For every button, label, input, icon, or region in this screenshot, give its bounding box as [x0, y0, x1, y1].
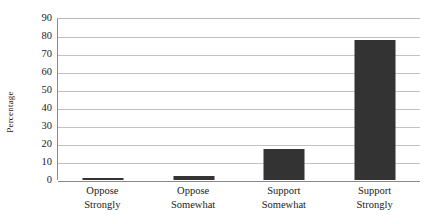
y-axis-tick-label: 90 [42, 13, 53, 24]
y-axis-tick-label: 40 [42, 103, 53, 114]
x-axis-category-labels: OpposeStronglyOpposeSomewhatSupportSomew… [57, 184, 420, 222]
bar-slot [58, 19, 149, 180]
y-axis-tick-label: 10 [42, 157, 53, 168]
x-axis-category-label-line1: Oppose [177, 185, 209, 196]
bar[interactable] [173, 176, 214, 180]
y-axis-tick-label: 20 [42, 139, 53, 150]
y-axis-tick-label: 60 [42, 67, 53, 78]
x-axis-category-label-line1: Oppose [86, 185, 118, 196]
bar-chart: Percentage 0102030405060708090 OpposeStr… [0, 0, 435, 224]
x-axis-category-label-line2: Strongly [57, 198, 148, 212]
x-axis-category-label-line1: Support [267, 185, 300, 196]
x-axis-category-label: OpposeSomewhat [148, 184, 239, 222]
x-axis-category-label: SupportSomewhat [239, 184, 330, 222]
bar-slot [149, 19, 240, 180]
x-axis-category-label-line2: Strongly [329, 198, 420, 212]
y-axis-tick-label: 50 [42, 85, 53, 96]
bar[interactable] [83, 178, 124, 180]
plot-area [57, 18, 420, 180]
x-axis-category-label-line1: Support [358, 185, 391, 196]
y-axis-tick-labels: 0102030405060708090 [22, 18, 52, 180]
bars-layer [58, 19, 420, 180]
x-axis-category-label: OpposeStrongly [57, 184, 148, 222]
x-axis-category-label-line2: Somewhat [239, 198, 330, 212]
x-axis-category-label-line2: Somewhat [148, 198, 239, 212]
x-axis-category-label: SupportStrongly [329, 184, 420, 222]
axis-baseline [58, 181, 420, 182]
bar[interactable] [264, 149, 305, 180]
bar[interactable] [354, 40, 395, 180]
bar-slot [330, 19, 421, 180]
y-axis-tick-label: 70 [42, 49, 53, 60]
y-axis-tick-label: 30 [42, 121, 53, 132]
y-axis-title: Percentage [0, 0, 20, 224]
y-axis-tick-label: 0 [47, 175, 52, 186]
bar-slot [239, 19, 330, 180]
y-axis-tick-label: 80 [42, 31, 53, 42]
